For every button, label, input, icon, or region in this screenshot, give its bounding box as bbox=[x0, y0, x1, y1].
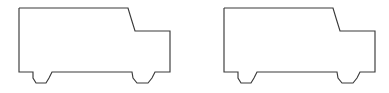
truck-outlines-svg bbox=[0, 0, 389, 93]
truck-left-outline bbox=[19, 8, 170, 83]
drawing-canvas bbox=[0, 0, 389, 93]
truck-right-outline bbox=[224, 8, 375, 83]
